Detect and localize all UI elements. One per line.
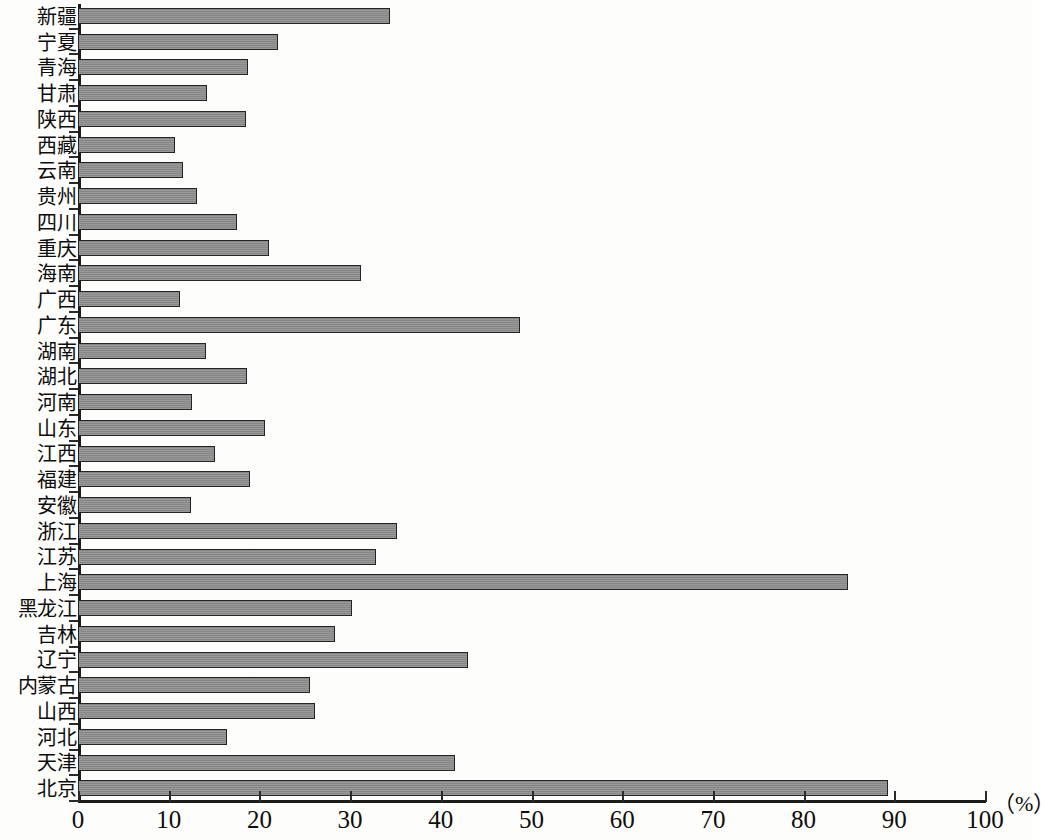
value-axis-tick-label: 10 — [156, 806, 181, 834]
bar-row — [78, 725, 985, 751]
category-axis-tick — [69, 749, 78, 751]
bar — [78, 34, 278, 50]
bar-row — [78, 648, 985, 674]
category-label: 河南 — [0, 392, 78, 414]
bar-row — [78, 81, 985, 107]
bar-row — [78, 55, 985, 81]
bar — [78, 291, 180, 307]
value-axis-tick-label: 50 — [519, 806, 544, 834]
category-axis-tick — [69, 156, 78, 158]
category-axis-tick — [69, 259, 78, 261]
bar — [78, 394, 192, 410]
bar-row — [78, 570, 985, 596]
value-axis-tick-labels: 0102030405060708090100 — [78, 806, 986, 840]
category-axis-tick — [69, 414, 78, 416]
category-axis-tick — [69, 388, 78, 390]
category-label: 浙江 — [0, 521, 78, 543]
bar — [78, 59, 248, 75]
value-axis-tick — [894, 791, 896, 802]
value-axis-tick-label: 40 — [428, 806, 453, 834]
bar — [78, 523, 397, 539]
bar-row — [78, 493, 985, 519]
bar — [78, 111, 246, 127]
category-label: 广东 — [0, 315, 78, 337]
value-axis-tick — [169, 791, 171, 802]
value-axis-tick — [532, 791, 534, 802]
bar-row — [78, 133, 985, 159]
value-axis-tick-label: 20 — [247, 806, 272, 834]
category-label: 内蒙古 — [0, 675, 78, 697]
category-axis-tick — [69, 182, 78, 184]
bar — [78, 188, 197, 204]
category-label: 重庆 — [0, 238, 78, 260]
category-axis-tick — [69, 646, 78, 648]
bar-row — [78, 158, 985, 184]
category-axis-tick — [69, 697, 78, 699]
bar — [78, 137, 175, 153]
bar — [78, 214, 237, 230]
category-axis-tick — [69, 234, 78, 236]
category-label: 西藏 — [0, 135, 78, 157]
category-label: 四川 — [0, 212, 78, 234]
bar — [78, 446, 215, 462]
value-axis-tick — [622, 791, 624, 802]
category-labels: 新疆宁夏青海甘肃陕西西藏云南贵州四川重庆海南广西广东湖南湖北河南山东江西福建安徽… — [0, 4, 78, 802]
bar — [78, 471, 250, 487]
category-label: 甘肃 — [0, 83, 78, 105]
bar — [78, 368, 247, 384]
category-axis-tick — [69, 311, 78, 313]
value-axis-tick — [985, 791, 987, 802]
value-axis-tick-label: 30 — [338, 806, 363, 834]
category-axis-tick — [69, 671, 78, 673]
category-axis-tick — [69, 337, 78, 339]
category-label: 辽宁 — [0, 649, 78, 671]
category-axis-tick — [69, 105, 78, 107]
value-axis-tick-label: 0 — [72, 806, 85, 834]
bar — [78, 240, 269, 256]
bar-row — [78, 673, 985, 699]
category-label: 陕西 — [0, 109, 78, 131]
value-axis-tick-label: 80 — [791, 806, 816, 834]
category-label: 湖南 — [0, 341, 78, 363]
plot-area — [78, 4, 985, 802]
category-axis-tick — [69, 517, 78, 519]
category-label: 江苏 — [0, 546, 78, 568]
value-axis-tick — [350, 791, 352, 802]
bar-row — [78, 442, 985, 468]
category-axis-tick — [69, 620, 78, 622]
category-axis-tick — [69, 440, 78, 442]
bar-row — [78, 210, 985, 236]
bar-row — [78, 519, 985, 545]
bar-row — [78, 4, 985, 30]
category-label: 山东 — [0, 418, 78, 440]
value-axis-tick — [713, 791, 715, 802]
category-label: 河北 — [0, 727, 78, 749]
category-axis-tick — [69, 208, 78, 210]
category-label: 北京 — [0, 778, 78, 800]
category-label: 贵州 — [0, 186, 78, 208]
bar-row — [78, 261, 985, 287]
category-axis-tick — [69, 543, 78, 545]
category-label: 天津 — [0, 752, 78, 774]
category-axis-tick — [69, 723, 78, 725]
bar — [78, 317, 520, 333]
bar — [78, 420, 265, 436]
category-label: 青海 — [0, 57, 78, 79]
category-label: 江西 — [0, 443, 78, 465]
category-axis-tick — [69, 131, 78, 133]
value-axis-tick — [804, 791, 806, 802]
axis-unit-label: （%） — [993, 792, 1045, 816]
category-label: 吉林 — [0, 624, 78, 646]
bar-row — [78, 339, 985, 365]
category-axis-tick — [69, 568, 78, 570]
bar-row — [78, 184, 985, 210]
bar — [78, 729, 227, 745]
bar-row — [78, 364, 985, 390]
value-axis-tick — [259, 791, 261, 802]
bar-row — [78, 236, 985, 262]
bar-row — [78, 416, 985, 442]
bar-row — [78, 622, 985, 648]
bar-row — [78, 313, 985, 339]
bar-row — [78, 287, 985, 313]
value-axis-ticks — [78, 791, 986, 803]
